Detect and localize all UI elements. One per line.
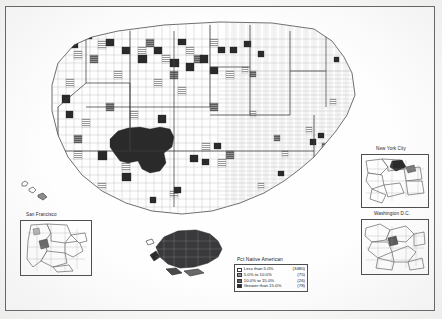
inset-box-washington-dc: [361, 219, 429, 275]
san-francisco-counties: [21, 221, 91, 275]
legend-swatch-1: [237, 268, 242, 272]
inset-label-new-york-city: New York City: [376, 147, 406, 152]
legend-row: 5.0% to 10.0% (75): [237, 273, 305, 278]
alaska-inset: [144, 221, 236, 283]
legend-swatch-3: [237, 279, 242, 283]
map-legend: Pct Native American Less than 5.0% (3480…: [234, 257, 308, 292]
inset-box-san-francisco: [20, 220, 92, 276]
legend-row: Greater than 15.0% (78): [237, 284, 305, 289]
legend-title: Pct Native American: [237, 257, 308, 262]
map-frame: San Francisco New York City: [5, 6, 435, 311]
legend-swatch-2: [237, 273, 242, 277]
legend-class-count: (78): [297, 284, 305, 288]
legend-class-label: Greater than 15.0%: [244, 284, 298, 288]
washington-dc-counties: [362, 220, 428, 274]
hawaii-inset: [22, 181, 47, 200]
legend-body: Less than 5.0% (3480) 5.0% to 10.0% (75)…: [234, 264, 308, 291]
inset-label-washington-dc: Washington D.C.: [374, 212, 410, 217]
map-page: San Francisco New York City: [0, 0, 442, 319]
inset-box-new-york-city: [361, 154, 429, 208]
new-york-city-counties: [362, 155, 428, 207]
legend-class-count: (75): [297, 273, 305, 277]
conus-choropleth: [14, 11, 366, 241]
legend-swatch-4: [237, 284, 242, 288]
inset-label-san-francisco: San Francisco: [26, 213, 57, 218]
legend-class-label: 5.0% to 10.0%: [244, 273, 298, 277]
